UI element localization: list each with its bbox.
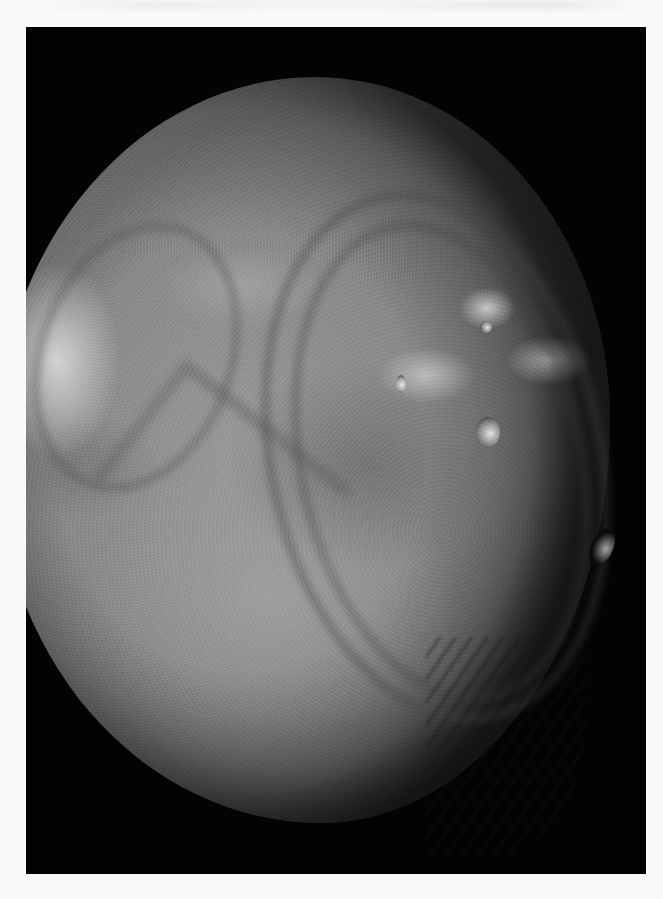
photograph: Miranda (moon of Uranus)	[26, 27, 646, 874]
crater	[396, 375, 406, 393]
print-bleed-through	[30, 0, 640, 10]
scanned-page: Miranda (moon of Uranus)	[0, 0, 663, 899]
moon-miranda	[26, 77, 610, 823]
crater	[480, 321, 492, 333]
crater	[476, 417, 500, 447]
terminator-ridges	[426, 637, 586, 857]
image-subject: Miranda (moon of Uranus)	[26, 27, 27, 28]
